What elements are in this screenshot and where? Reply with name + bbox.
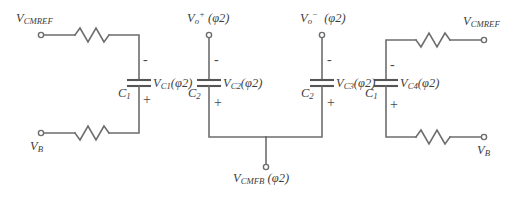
cap-4-name: C1 bbox=[365, 87, 378, 101]
cap-4-plus-sign: + bbox=[390, 98, 398, 112]
label-vb-right: VB bbox=[477, 144, 490, 158]
terminal-vcmref-left[interactable] bbox=[38, 32, 43, 37]
mid-right-branch bbox=[266, 38, 334, 137]
terminal-vcmfb[interactable] bbox=[263, 164, 268, 169]
cap-1-plus-sign: + bbox=[143, 93, 151, 107]
wire-left-top-b bbox=[109, 35, 139, 80]
cap-2-plus-sign: + bbox=[214, 96, 222, 110]
wire-cap2-to-cmfb-rail bbox=[209, 86, 266, 137]
label-vcmfb: VCMFB (φ2) bbox=[233, 172, 289, 186]
cap-4-minus-sign: - bbox=[390, 58, 395, 72]
cap-1-voltage-label: VC1(φ2) bbox=[153, 77, 192, 91]
cap-3-minus-sign: - bbox=[327, 53, 332, 67]
terminal-vb-left[interactable] bbox=[38, 130, 43, 135]
cap-1-minus-sign: - bbox=[143, 53, 148, 67]
cap-1-plates bbox=[127, 80, 151, 86]
label-vcmref-right: VCMREF bbox=[463, 15, 500, 29]
cap-2-minus-sign: - bbox=[214, 53, 219, 67]
terminal-vo-plus[interactable] bbox=[206, 32, 211, 37]
resistor-bottom-left-zigzag bbox=[75, 126, 109, 140]
terminal-vcmref-right[interactable] bbox=[481, 37, 486, 42]
resistor-top-right-zigzag bbox=[416, 33, 450, 47]
resistor-bottom-right-zigzag bbox=[416, 130, 450, 144]
cap-3-name: C2 bbox=[301, 87, 314, 101]
cap-2-name: C2 bbox=[188, 87, 201, 101]
cap-4-voltage-label: VC4(φ2) bbox=[400, 77, 439, 91]
schematic-svg bbox=[0, 0, 525, 198]
cap-2-voltage-label: VC2(φ2) bbox=[223, 77, 262, 91]
circuit-diagram: VCMREF VB Vo+ (φ2) Vo− (φ2) VCMFB (φ2) V… bbox=[0, 0, 525, 198]
terminal-vb-right[interactable] bbox=[481, 134, 486, 139]
left-top-branch bbox=[44, 28, 139, 80]
label-vo-minus: Vo− (φ2) bbox=[300, 10, 346, 26]
resistor-top-left-zigzag bbox=[75, 28, 109, 42]
label-vcmref-left: VCMREF bbox=[16, 12, 53, 26]
cap-1-name: C1 bbox=[118, 87, 131, 101]
right-top-branch bbox=[386, 33, 481, 80]
label-vb-left: VB bbox=[30, 140, 43, 154]
cap-3-plus-sign: + bbox=[327, 96, 335, 110]
cap-4-plates bbox=[374, 80, 398, 86]
terminal-vo-minus[interactable] bbox=[319, 32, 324, 37]
right-bottom-branch bbox=[386, 86, 481, 144]
label-vo-plus: Vo+ (φ2) bbox=[187, 10, 230, 26]
